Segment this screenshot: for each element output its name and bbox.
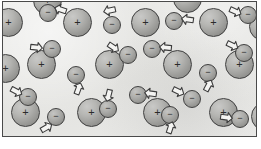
negative-charge-sign: − (205, 68, 210, 77)
electron-2: − (103, 16, 121, 34)
negative-charge-sign: − (105, 104, 110, 113)
electron-5: − (43, 40, 61, 58)
negative-charge-sign: − (245, 10, 250, 19)
negative-charge-sign: − (73, 70, 78, 79)
negative-charge-sign: − (237, 114, 242, 123)
electron-17: − (231, 110, 249, 128)
negative-charge-sign: − (53, 112, 58, 121)
negative-charge-sign: − (171, 16, 176, 25)
electron-9: − (67, 66, 85, 84)
negative-charge-sign: − (189, 94, 194, 103)
ion-r2-c3: + (163, 50, 192, 79)
positive-charge-sign: + (22, 107, 28, 118)
negative-charge-sign: − (49, 44, 54, 53)
electron-11: − (129, 86, 147, 104)
negative-charge-sign: − (109, 20, 114, 29)
negative-charge-sign: − (167, 110, 172, 119)
electron-15: − (47, 108, 65, 126)
ion-r1-c3: + (131, 8, 160, 37)
electron-6: − (119, 46, 137, 64)
positive-charge-sign: + (5, 17, 11, 28)
negative-charge-sign: − (125, 50, 130, 59)
positive-charge-sign: + (220, 107, 226, 118)
positive-charge-sign: + (88, 107, 94, 118)
positive-charge-sign: + (174, 59, 180, 70)
electron-10: − (199, 64, 217, 82)
electron-14: − (99, 100, 117, 118)
electron-8: − (235, 44, 253, 62)
ion-r2-c0: + (2, 54, 20, 83)
positive-charge-sign: + (106, 59, 112, 70)
ion-r1-c1: + (2, 8, 23, 37)
positive-charge-sign: + (154, 107, 160, 118)
positive-charge-sign: + (74, 17, 80, 28)
positive-charge-sign: + (142, 17, 148, 28)
electron-12: − (19, 88, 37, 106)
negative-charge-sign: − (241, 48, 246, 57)
negative-charge-sign: − (149, 44, 154, 53)
positive-charge-sign: + (2, 63, 8, 74)
electron-3: − (165, 12, 183, 30)
positive-charge-sign: + (38, 59, 44, 70)
positive-charge-sign: + (210, 17, 216, 28)
positive-charge-sign: + (184, 1, 190, 4)
ion-r1-c2: + (63, 8, 92, 37)
negative-charge-sign: − (25, 92, 30, 101)
negative-charge-sign: − (135, 90, 140, 99)
electron-1: − (39, 4, 57, 22)
negative-charge-sign: − (45, 8, 50, 17)
electron-7: − (143, 40, 161, 58)
electron-4: − (239, 6, 257, 24)
electron-16: − (161, 106, 179, 124)
ion-r3-c5: + (251, 102, 257, 131)
ion-r1-c4: + (199, 8, 228, 37)
electron-13: − (183, 90, 201, 108)
ion-r0-c2: + (173, 1, 202, 13)
charge-motion-diagram: +++++++++++++++++−−−−−−−−−−−−−−−−− (2, 1, 257, 137)
